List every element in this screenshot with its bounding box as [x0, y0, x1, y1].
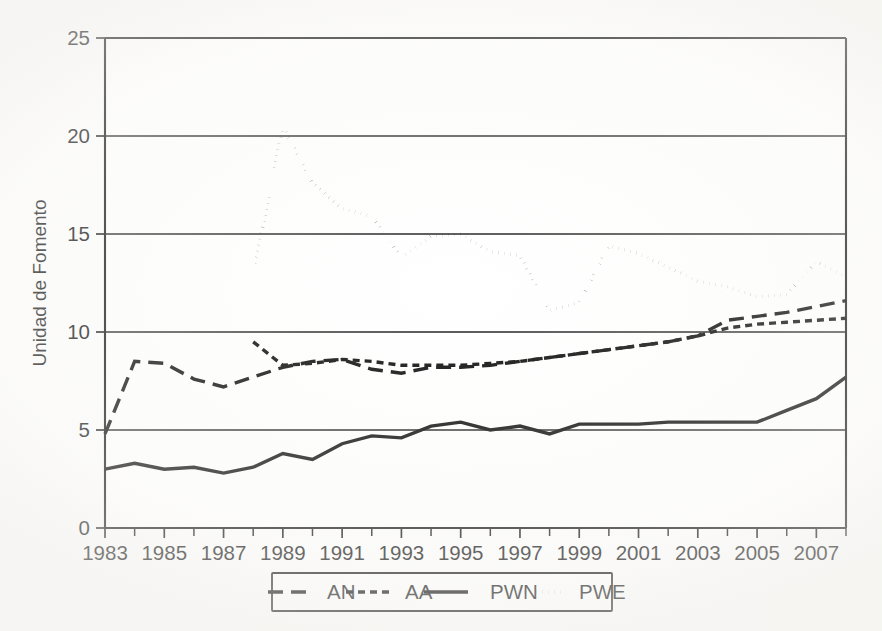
- x-tick-label: 2003: [675, 541, 721, 564]
- plot-frame: [105, 38, 846, 528]
- y-axis: 0510152025: [67, 26, 105, 539]
- x-tick-label: 1989: [260, 541, 306, 564]
- y-tick-label: 25: [67, 26, 90, 49]
- y-tick-label: 15: [67, 222, 90, 245]
- x-tick-label: 1987: [201, 541, 247, 564]
- y-tick-label: 10: [67, 320, 90, 343]
- y-axis-title: Unidad de Fomento: [29, 200, 50, 367]
- y-tick-label: 5: [79, 418, 90, 441]
- x-tick-label: 1985: [141, 541, 187, 564]
- chart-figure: 0510152025 19831985198719891991199319951…: [0, 0, 882, 631]
- legend-label-pwn: PWN: [490, 580, 538, 603]
- x-tick-label: 1999: [556, 541, 602, 564]
- x-tick-label: 2001: [616, 541, 662, 564]
- x-tick-label: 1991: [319, 541, 365, 564]
- x-tick-label: 2007: [794, 541, 840, 564]
- chart-legend: ANAAPWNPWE: [268, 573, 626, 611]
- x-tick-label: 1995: [438, 541, 484, 564]
- x-tick-label: 1997: [497, 541, 543, 564]
- y-tick-label: 0: [79, 516, 90, 539]
- y-tick-label: 20: [67, 124, 90, 147]
- x-tick-label: 2005: [734, 541, 780, 564]
- x-tick-label: 1993: [379, 541, 425, 564]
- x-axis: 1983198519871989199119931995199719992001…: [82, 528, 846, 564]
- x-tick-label: 1983: [82, 541, 128, 564]
- legend-label-pwe: PWE: [579, 580, 626, 603]
- line-chart: 0510152025 19831985198719891991199319951…: [0, 0, 882, 631]
